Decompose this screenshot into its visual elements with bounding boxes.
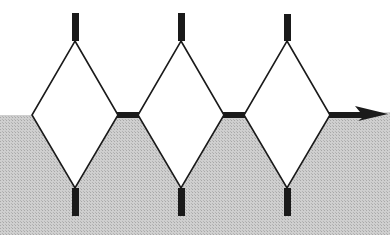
top-bar-2 [178, 13, 185, 41]
bottom-bar-3 [284, 188, 291, 216]
top-bar-1 [72, 13, 79, 41]
bottom-bar-1 [72, 188, 79, 216]
connector-2 [223, 112, 245, 118]
bottom-bar-2 [178, 188, 185, 216]
top-bar-3 [284, 14, 291, 41]
connector-1 [117, 112, 139, 118]
diamond-chain-diagram [0, 0, 390, 235]
